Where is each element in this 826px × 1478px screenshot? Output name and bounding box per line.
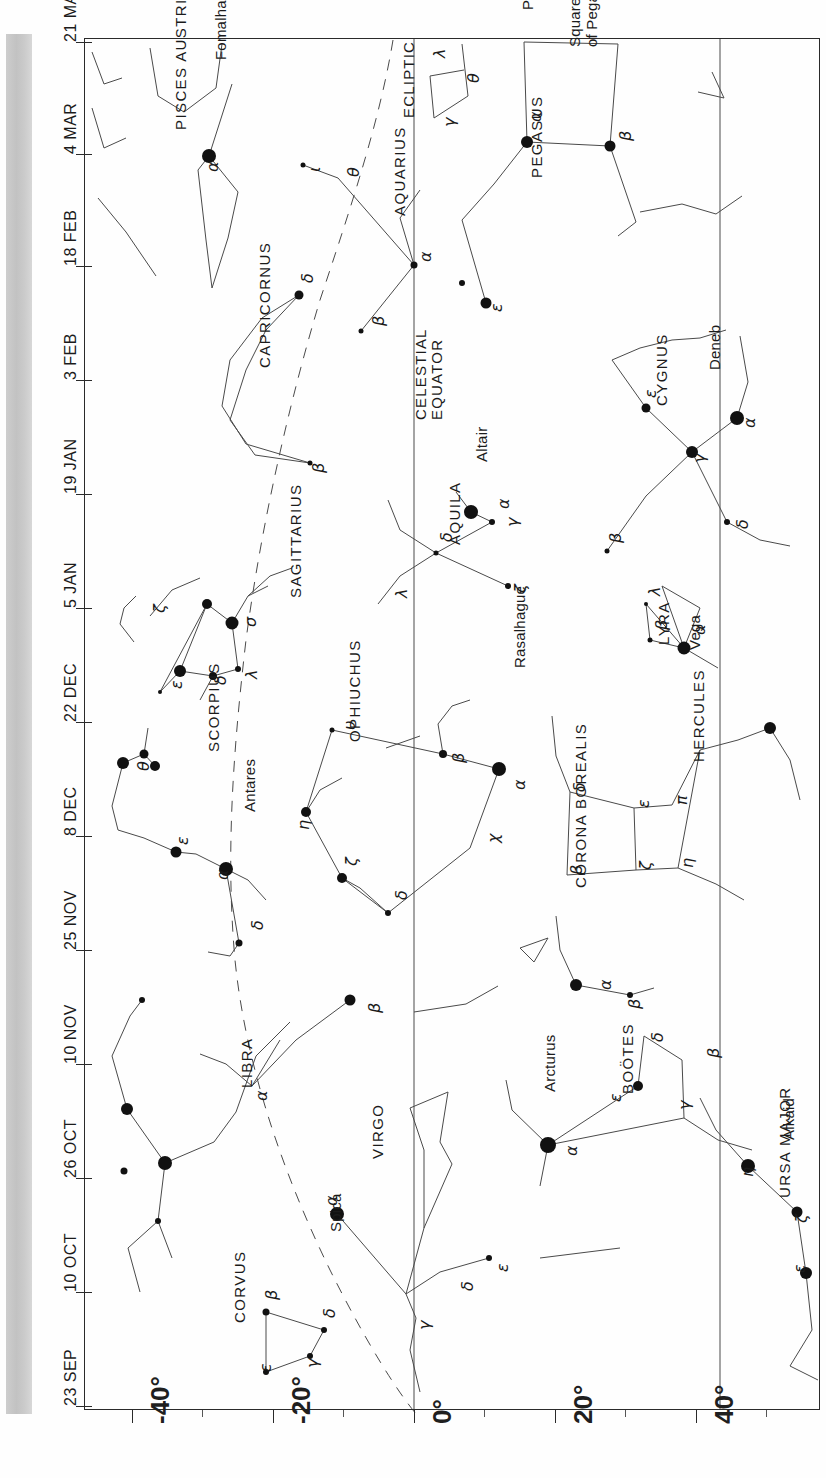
date-tick bbox=[76, 494, 92, 495]
star-marker bbox=[411, 262, 418, 269]
star-marker bbox=[226, 617, 239, 630]
star-marker bbox=[337, 873, 347, 883]
date-tick bbox=[76, 380, 92, 381]
greek-star-label-55: η bbox=[738, 1167, 757, 1177]
declination-tick bbox=[273, 1410, 274, 1423]
star-marker bbox=[330, 728, 335, 733]
greek-star-label-0: α bbox=[203, 161, 222, 172]
greek-star-label-36: β bbox=[449, 753, 468, 763]
date-axis-label-2: 18 FEB bbox=[62, 210, 80, 266]
star-marker bbox=[171, 847, 182, 858]
star-marker bbox=[489, 519, 495, 525]
declination-minor-tick bbox=[625, 1410, 626, 1417]
date-tick bbox=[76, 1178, 92, 1179]
declination-minor-tick bbox=[766, 1410, 767, 1417]
date-axis-label-9: 10 NOV bbox=[62, 1004, 80, 1064]
greek-star-label-62: δ bbox=[458, 1281, 477, 1291]
star-name-spica: Spica bbox=[327, 1193, 344, 1232]
constellation-label-corvus: CORVUS bbox=[231, 1251, 248, 1323]
date-axis-label-5: 5 JAN bbox=[62, 562, 80, 608]
declination-tick bbox=[555, 1410, 556, 1423]
constellation-label-bootes: BOÖTES bbox=[619, 1023, 636, 1094]
date-axis-label-4: 19 JAN bbox=[62, 439, 80, 494]
date-tick bbox=[76, 266, 92, 267]
declination-tick bbox=[414, 1410, 415, 1423]
greek-star-label-16: δ bbox=[733, 519, 752, 529]
star-marker bbox=[570, 979, 582, 991]
declination-axis-label-2: 0° bbox=[427, 1399, 458, 1424]
greek-star-label-25: λ bbox=[392, 589, 411, 598]
star-name-antares: Antares bbox=[241, 759, 258, 812]
constellation-label-corona-borealis: CORONA BOREALIS bbox=[572, 723, 589, 888]
greek-star-label-45: ζ bbox=[636, 861, 655, 870]
greek-star-label-53: γ bbox=[675, 1101, 694, 1110]
date-axis-label-12: 23 SEP bbox=[62, 1349, 80, 1406]
greek-star-label-33: α bbox=[213, 869, 232, 880]
star-marker bbox=[385, 910, 391, 916]
star-marker bbox=[439, 750, 447, 758]
greek-star-label-57: ε bbox=[790, 1264, 809, 1273]
star-name-alkaid: Alkaid bbox=[780, 1098, 797, 1140]
constellation-label-sagittarius: SAGITTARIUS bbox=[287, 484, 304, 598]
star-marker bbox=[648, 638, 653, 643]
star-chart-page: 21 MAR4 MAR18 FEB3 FEB19 JAN5 JAN22 DEC8… bbox=[0, 0, 826, 1478]
constellation-label-square-of-pegasus-2: of Pegasus bbox=[583, 0, 600, 47]
constellation-label-hercules: HERCULES bbox=[690, 669, 707, 762]
date-tick bbox=[76, 1064, 92, 1065]
greek-star-label-49: β bbox=[625, 999, 644, 1009]
constellation-label-pisces: PISCES bbox=[519, 0, 536, 10]
star-marker bbox=[434, 551, 439, 556]
greek-star-label-10: ι bbox=[305, 167, 324, 172]
greek-star-label-65: δ bbox=[320, 1308, 339, 1318]
star-marker bbox=[301, 807, 311, 817]
greek-star-label-66: γ bbox=[303, 1359, 322, 1368]
greek-star-label-61: γ bbox=[415, 1321, 434, 1330]
date-axis-label-0: 21 MAR bbox=[62, 0, 80, 42]
greek-star-label-32: ε bbox=[173, 836, 192, 845]
star-marker bbox=[764, 722, 776, 734]
star-name-altair: Altair bbox=[473, 427, 490, 462]
declination-minor-tick bbox=[484, 1410, 485, 1417]
greek-star-label-2: θ bbox=[464, 73, 483, 83]
date-tick bbox=[76, 608, 92, 609]
star-marker bbox=[202, 599, 212, 609]
greek-star-label-31: θ bbox=[134, 761, 153, 771]
greek-star-label-34: δ bbox=[248, 920, 267, 930]
date-tick bbox=[76, 42, 92, 43]
greek-star-label-63: ε bbox=[493, 1263, 512, 1272]
star-marker bbox=[117, 757, 129, 769]
greek-star-label-67: ε bbox=[256, 1363, 275, 1372]
greek-star-label-56: ζ bbox=[792, 1214, 811, 1223]
chart-frame bbox=[84, 38, 820, 1410]
greek-star-label-8: β bbox=[369, 316, 388, 326]
constellation-label-square-of-pegasus-1: Square bbox=[566, 0, 583, 47]
constellation-label-scorpius: SCORPIUS bbox=[205, 662, 222, 752]
greek-star-label-51: β bbox=[704, 1048, 723, 1058]
star-marker bbox=[345, 995, 356, 1006]
star-marker bbox=[158, 690, 162, 694]
greek-star-label-21: α bbox=[494, 498, 513, 509]
greek-star-label-54: α bbox=[562, 1145, 581, 1156]
star-name-rasalhague: Rasalhague bbox=[511, 586, 528, 668]
star-marker bbox=[464, 505, 478, 519]
date-tick bbox=[76, 722, 92, 723]
greek-star-label-52: ε bbox=[606, 1093, 625, 1102]
greek-star-label-30: ε bbox=[167, 680, 186, 689]
greek-star-label-9: θ bbox=[344, 167, 363, 177]
greek-star-label-46: η bbox=[678, 858, 697, 868]
constellation-label-pegasus: PEGASUS bbox=[528, 96, 545, 178]
star-name-vega: Vega bbox=[686, 615, 703, 650]
constellation-label-pisces-austrinus: PISCES AUSTRINUS bbox=[172, 0, 189, 130]
greek-star-label-50: δ bbox=[648, 1032, 667, 1042]
greek-star-label-37: α bbox=[510, 779, 529, 790]
greek-star-label-27: ζ bbox=[150, 604, 169, 613]
date-tick bbox=[76, 950, 92, 951]
star-name-deneb: Deneb bbox=[706, 325, 723, 370]
greek-star-label-20: λ bbox=[645, 587, 664, 596]
date-axis-label-3: 3 FEB bbox=[62, 333, 80, 380]
greek-star-label-17: β bbox=[606, 533, 625, 543]
constellation-label-capricornus: CAPRICORNUS bbox=[256, 242, 273, 368]
ecliptic-label: ECLIPTIC bbox=[400, 41, 417, 118]
greek-star-label-5: β bbox=[616, 131, 635, 141]
greek-star-label-3: γ bbox=[440, 118, 459, 127]
